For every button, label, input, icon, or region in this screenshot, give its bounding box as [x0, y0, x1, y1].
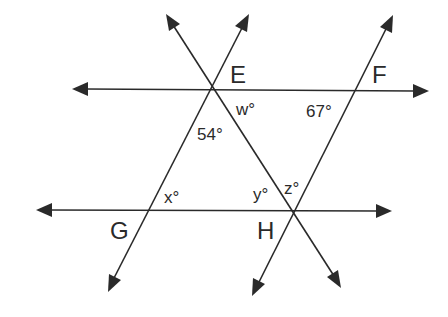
arrowhead-up-icon	[380, 15, 393, 33]
arrowhead-left-icon	[36, 203, 52, 217]
line-GE	[108, 14, 249, 292]
arrowhead-up-icon	[166, 14, 180, 31]
point-label-F: F	[372, 61, 387, 88]
arrowhead-right-icon	[413, 84, 429, 98]
geometry-diagram: E F G H w° 54° 67° x° y° z°	[0, 0, 448, 317]
arrowhead-left-icon	[72, 82, 88, 96]
angle-label-67: 67°	[306, 102, 332, 121]
arrowhead-up-icon	[235, 14, 249, 32]
angle-label-w: w°	[235, 100, 255, 119]
line-HF	[252, 15, 393, 296]
arrowhead-down-icon	[252, 278, 265, 296]
line-EH	[166, 14, 341, 288]
angle-label-x: x°	[164, 188, 179, 207]
arrowhead-right-icon	[376, 204, 392, 218]
arrowhead-down-icon	[327, 270, 341, 288]
angle-label-y: y°	[253, 185, 268, 204]
angle-label-z: z°	[284, 179, 299, 198]
point-label-G: G	[110, 217, 129, 244]
point-label-E: E	[230, 61, 246, 88]
angle-label-54: 54°	[197, 125, 223, 144]
point-label-H: H	[257, 217, 274, 244]
line-GH	[36, 203, 392, 218]
